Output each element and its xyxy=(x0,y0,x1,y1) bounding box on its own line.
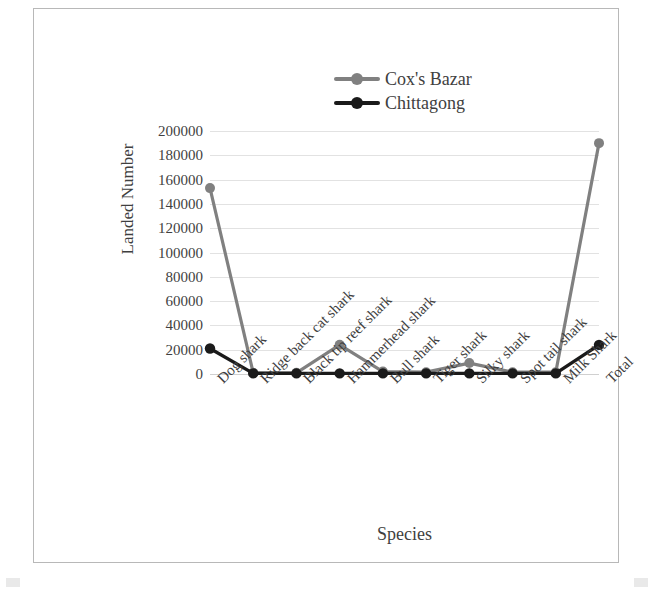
y-axis-title: Landed Number xyxy=(118,104,138,294)
chart-legend: Cox's Bazar Chittagong xyxy=(334,67,564,115)
y-tick-label: 40000 xyxy=(166,317,204,334)
y-tick-label: 140000 xyxy=(158,195,203,212)
legend-item-cox-s-bazar[interactable]: Cox's Bazar xyxy=(334,67,564,91)
figure-caption xyxy=(0,570,654,594)
y-tick-label: 100000 xyxy=(158,244,203,261)
x-axis-title: Species xyxy=(210,524,599,545)
chart-frame: Cox's Bazar Chittagong Landed Number 200… xyxy=(33,8,619,563)
y-tick-label: 200000 xyxy=(158,123,203,140)
data-point[interactable] xyxy=(594,138,604,148)
data-point[interactable] xyxy=(205,343,215,353)
y-tick-label: 160000 xyxy=(158,171,203,188)
y-tick-label: 180000 xyxy=(158,147,203,164)
y-tick-label: 80000 xyxy=(166,268,204,285)
x-axis-tick-labels: Dog sharkRidge back cat sharkBlack tip r… xyxy=(210,375,599,485)
data-point[interactable] xyxy=(205,183,215,193)
legend-swatch-icon-1 xyxy=(334,96,380,110)
y-tick-label: 60000 xyxy=(166,293,204,310)
y-tick-label: 20000 xyxy=(166,341,204,358)
x-tick-label: Total xyxy=(603,353,637,387)
legend-item-chittagong[interactable]: Chittagong xyxy=(334,91,564,115)
figure-container: Cox's Bazar Chittagong Landed Number 200… xyxy=(0,0,654,594)
legend-label-0: Cox's Bazar xyxy=(385,69,472,89)
legend-swatch-icon-0 xyxy=(334,72,380,86)
legend-label-1: Chittagong xyxy=(385,93,465,113)
y-tick-label: 0 xyxy=(196,366,204,383)
y-tick-label: 120000 xyxy=(158,220,203,237)
